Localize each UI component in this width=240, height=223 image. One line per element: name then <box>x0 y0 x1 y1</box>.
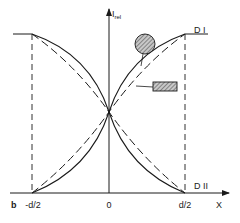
x-tick-neg-half-d: -d/2 <box>25 200 41 210</box>
x-axis-label: X <box>216 200 222 210</box>
y-axis-label: Irel <box>112 9 121 20</box>
curve-label-DII: D II <box>194 181 208 191</box>
legend-rect-leader <box>136 86 153 87</box>
x-tick-zero: 0 <box>106 200 111 210</box>
x-tick-pos-half-d: d/2 <box>179 200 192 210</box>
diagram: Irel D I D II b -d/2 0 d/2 X <box>0 0 240 223</box>
curve-label-DI: D I <box>194 25 206 35</box>
legend-circle-hatched <box>135 34 155 54</box>
legend-rect-hatched <box>153 82 177 91</box>
panel-label: b <box>11 200 17 210</box>
